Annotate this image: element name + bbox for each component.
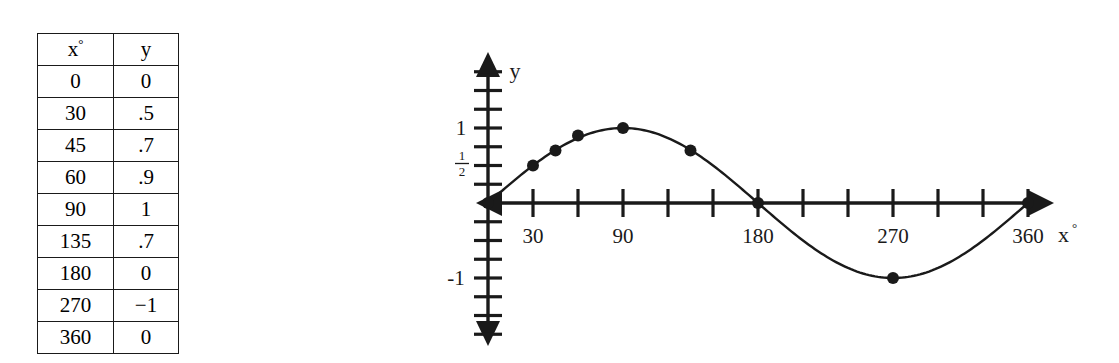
cell-y: .5 (114, 98, 179, 130)
sine-graph-svg: 1 -1 1 2 3090180270360 y x ° (190, 0, 1119, 363)
x-tick-label-30: 30 (523, 224, 544, 248)
data-point (887, 272, 899, 284)
cell-y: .7 (114, 130, 179, 162)
table-body: 0030.545.760.9901135.71800270−13600 (38, 66, 179, 354)
cell-y: .7 (114, 226, 179, 258)
data-point (617, 122, 629, 134)
cell-y: 0 (114, 322, 179, 354)
table-row: 901 (38, 194, 179, 226)
cell-x: 45 (38, 130, 114, 162)
y-tick-label-1: 1 (456, 116, 467, 140)
sine-figure: x° y 0030.545.760.9901135.71800270−13600 (0, 0, 1119, 363)
data-point (685, 145, 697, 157)
cell-y: 0 (114, 258, 179, 290)
x-axis-degree-symbol-icon: ° (1072, 220, 1077, 235)
table-row: 3600 (38, 322, 179, 354)
data-point (1022, 197, 1034, 209)
data-point (482, 197, 494, 209)
cell-x: 60 (38, 162, 114, 194)
cell-y: −1 (114, 290, 179, 322)
cell-x: 135 (38, 226, 114, 258)
y-tick-label-neg1: -1 (447, 266, 465, 290)
fraction-numerator: 1 (459, 148, 466, 163)
cell-x: 270 (38, 290, 114, 322)
table-row: 270−1 (38, 290, 179, 322)
cell-y: .9 (114, 162, 179, 194)
fraction-denominator: 2 (459, 164, 466, 179)
y-tick-label-one-half: 1 2 (455, 148, 469, 179)
column-header-x-text: x (68, 37, 79, 61)
x-tick-label-180: 180 (742, 224, 774, 248)
cell-x: 30 (38, 98, 114, 130)
table-row: 60.9 (38, 162, 179, 194)
column-header-y: y (114, 34, 179, 66)
x-tick-label-90: 90 (613, 224, 634, 248)
column-header-x: x° (38, 34, 114, 66)
x-tick-label-270: 270 (877, 224, 909, 248)
x-axis (476, 189, 1054, 217)
y-axis-label: y (510, 58, 521, 83)
table-row: 00 (38, 66, 179, 98)
table-row: 1800 (38, 258, 179, 290)
cell-x: 0 (38, 66, 114, 98)
cell-x: 90 (38, 194, 114, 226)
degree-symbol-icon: ° (78, 36, 83, 51)
y-axis-tick-labels: 1 -1 1 2 (447, 116, 469, 290)
data-point (752, 197, 764, 209)
x-axis-label-text: x (1058, 222, 1069, 247)
graph-panel: 1 -1 1 2 3090180270360 y x ° (190, 0, 1119, 363)
table-header-row: x° y (38, 34, 179, 66)
data-point (550, 145, 562, 157)
table-row: 30.5 (38, 98, 179, 130)
cell-y: 1 (114, 194, 179, 226)
cell-x: 360 (38, 322, 114, 354)
table-row: 135.7 (38, 226, 179, 258)
data-point (572, 130, 584, 142)
values-table: x° y 0030.545.760.9901135.71800270−13600 (37, 33, 179, 354)
x-axis-tick-labels: 3090180270360 (523, 224, 1044, 248)
cell-x: 180 (38, 258, 114, 290)
x-tick-label-360: 360 (1012, 224, 1044, 248)
x-axis-label: x ° (1058, 220, 1077, 247)
data-point (527, 160, 539, 172)
cell-y: 0 (114, 66, 179, 98)
table-row: 45.7 (38, 130, 179, 162)
